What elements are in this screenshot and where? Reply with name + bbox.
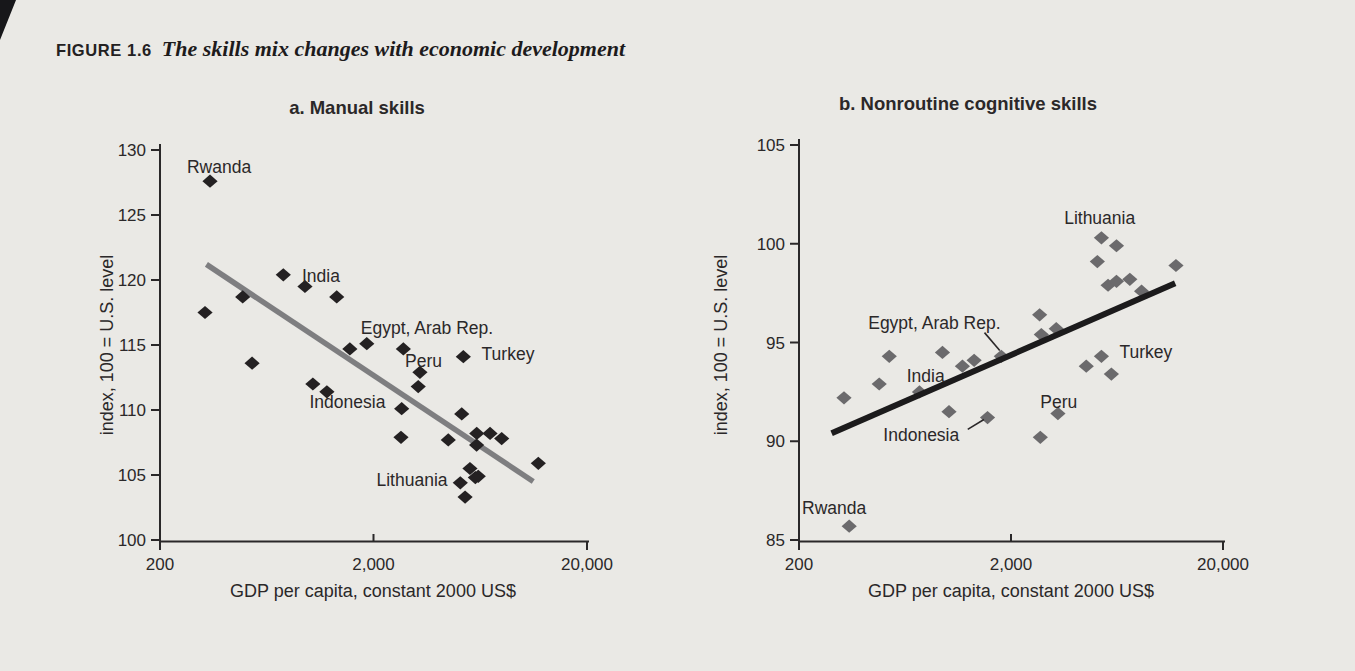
y-tick-label: 90	[766, 432, 785, 451]
panel-a-scatter: a. Manual skillsGDP per capita, constant…	[97, 97, 613, 601]
data-point-diamond	[394, 402, 409, 415]
country-label: Lithuania	[1064, 208, 1135, 228]
panel-title: b. Nonroutine cognitive skills	[839, 93, 1097, 114]
charts-canvas: a. Manual skillsGDP per capita, constant…	[0, 0, 1355, 671]
data-point-diamond	[441, 433, 456, 446]
y-axis-label: index, 100 = U.S. level	[711, 255, 731, 436]
x-tick-label: 20,000	[1197, 555, 1249, 574]
data-point-diamond	[457, 491, 472, 504]
x-tick-label: 2,000	[990, 555, 1033, 574]
scanned-figure-page: FIGURE 1.6The skills mix changes with ec…	[0, 0, 1355, 671]
x-axis-label: GDP per capita, constant 2000 US$	[868, 581, 1154, 601]
data-point-diamond	[941, 405, 956, 418]
y-tick-label: 95	[766, 334, 785, 353]
y-tick-label: 105	[118, 466, 146, 485]
country-label: India	[907, 366, 945, 386]
data-point-diamond	[935, 346, 950, 359]
data-point-diamond	[967, 354, 982, 367]
country-label: Egypt, Arab Rep.	[361, 318, 493, 338]
y-tick-label: 100	[118, 531, 146, 550]
country-label: Turkey	[482, 344, 535, 364]
country-label: Peru	[1040, 392, 1077, 412]
country-label: Peru	[405, 351, 442, 371]
data-point-diamond	[1104, 368, 1119, 381]
data-point-diamond	[359, 337, 374, 350]
data-point-diamond	[456, 350, 471, 363]
country-label: Rwanda	[187, 157, 251, 177]
data-point-diamond	[393, 431, 408, 444]
x-tick-label: 200	[785, 555, 813, 574]
label-leader-line	[985, 333, 1000, 351]
data-point-diamond	[244, 357, 259, 370]
y-tick-label: 120	[118, 271, 146, 290]
data-point-diamond	[1122, 273, 1137, 286]
data-point-diamond	[1090, 255, 1105, 268]
country-label: India	[302, 266, 340, 286]
trend-line	[206, 264, 533, 481]
y-axis-label: index, 100 = U.S. level	[97, 255, 117, 436]
data-point-diamond	[1094, 231, 1109, 244]
y-tick-label: 100	[757, 235, 785, 254]
data-point-diamond	[531, 457, 546, 470]
data-point-diamond	[1033, 431, 1048, 444]
data-point-diamond	[872, 377, 887, 390]
data-point-diamond	[1109, 239, 1124, 252]
data-point-diamond	[411, 380, 426, 393]
country-label: Indonesia	[883, 425, 959, 445]
data-point-diamond	[1168, 259, 1183, 272]
country-label: Lithuania	[376, 470, 447, 490]
data-point-diamond	[1094, 350, 1109, 363]
data-point-diamond	[276, 268, 291, 281]
x-axis-label: GDP per capita, constant 2000 US$	[230, 581, 516, 601]
data-point-diamond	[305, 377, 320, 390]
y-tick-label: 105	[757, 136, 785, 155]
country-label: Rwanda	[802, 498, 866, 518]
data-point-diamond	[882, 350, 897, 363]
data-point-diamond	[980, 411, 995, 424]
panel-title: a. Manual skills	[289, 97, 425, 118]
y-tick-label: 115	[119, 336, 146, 355]
data-point-diamond	[842, 520, 857, 533]
label-leader-line	[968, 420, 984, 430]
data-point-diamond	[197, 306, 212, 319]
country-label: Indonesia	[309, 392, 385, 412]
country-label: Turkey	[1119, 342, 1172, 362]
y-tick-label: 85	[766, 531, 785, 550]
x-tick-label: 200	[146, 555, 174, 574]
data-point-diamond	[1032, 308, 1047, 321]
y-tick-label: 110	[119, 401, 146, 420]
y-tick-label: 125	[118, 206, 146, 225]
x-tick-label: 20,000	[561, 555, 613, 574]
data-point-diamond	[453, 476, 468, 489]
panel-b-scatter: b. Nonroutine cognitive skillsGDP per ca…	[711, 93, 1249, 601]
data-point-diamond	[1079, 360, 1094, 373]
country-label: Egypt, Arab Rep.	[868, 313, 1000, 333]
data-point-diamond	[454, 407, 469, 420]
y-tick-label: 130	[118, 141, 146, 160]
data-point-diamond	[836, 391, 851, 404]
x-tick-label: 2,000	[352, 555, 395, 574]
data-point-diamond	[329, 290, 344, 303]
